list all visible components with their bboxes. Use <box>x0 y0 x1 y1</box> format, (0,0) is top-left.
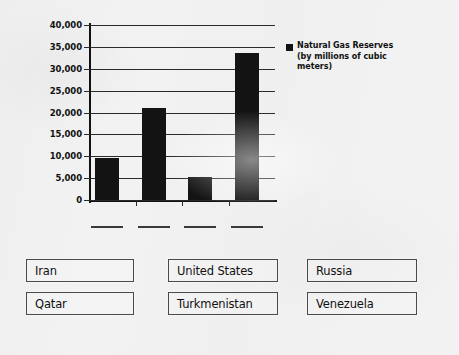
y-axis-tick-label: 10,000 <box>50 151 82 161</box>
y-axis-tick-label: 0 <box>76 195 82 205</box>
y-axis-tick <box>84 91 89 92</box>
x-axis-tick <box>182 200 183 206</box>
y-axis-tick <box>84 47 89 48</box>
y-axis-tick <box>84 25 89 26</box>
y-axis-tick-label: 5,000 <box>56 173 82 183</box>
plot-area: 05,00010,00015,00020,00025,00030,00035,0… <box>89 25 275 200</box>
x-axis-tick <box>229 200 230 206</box>
legend-label-line-1: Natural Gas Reserves <box>297 41 393 52</box>
answer-option-iran[interactable]: Iran <box>26 259 134 282</box>
answer-blank-2[interactable] <box>184 226 216 228</box>
bar <box>142 108 166 200</box>
y-axis-tick <box>84 200 89 201</box>
answer-option-russia[interactable]: Russia <box>307 259 417 282</box>
legend-label-line-3: meters) <box>297 62 393 73</box>
bar <box>188 177 212 200</box>
answer-option-turkmenistan[interactable]: Turkmenistan <box>168 292 278 315</box>
bar-chart: 05,00010,00015,00020,00025,00030,00035,0… <box>0 0 459 240</box>
legend-swatch-icon <box>286 44 293 51</box>
y-axis-tick <box>84 69 89 70</box>
y-axis-tick <box>84 178 89 179</box>
y-axis-tick-label: 15,000 <box>50 129 82 139</box>
legend-label-line-2: (by millions of cubic <box>297 52 393 63</box>
y-axis-tick-label: 35,000 <box>50 42 82 52</box>
y-axis-tick-label: 20,000 <box>50 108 82 118</box>
answer-option-united-states[interactable]: United States <box>168 259 278 282</box>
bar <box>95 158 119 200</box>
x-axis-tick <box>136 200 137 206</box>
answer-blank-1[interactable] <box>138 226 170 228</box>
bar <box>235 53 259 200</box>
answer-option-qatar[interactable]: Qatar <box>26 292 134 315</box>
answer-option-venezuela[interactable]: Venezuela <box>307 292 417 315</box>
y-axis-tick-label: 30,000 <box>50 64 82 74</box>
y-axis-tick <box>84 156 89 157</box>
y-axis-tick <box>84 113 89 114</box>
answer-blank-0[interactable] <box>91 226 123 228</box>
gridline <box>89 47 275 48</box>
answer-blank-3[interactable] <box>231 226 263 228</box>
gridline <box>89 25 275 26</box>
y-axis-tick <box>84 134 89 135</box>
answer-bank: IranUnited StatesRussiaQatarTurkmenistan… <box>0 252 459 332</box>
legend-label: Natural Gas Reserves (by millions of cub… <box>297 41 393 73</box>
y-axis-tick-label: 25,000 <box>50 86 82 96</box>
chart-legend: Natural Gas Reserves (by millions of cub… <box>286 41 436 73</box>
y-axis-tick-label: 40,000 <box>50 20 82 30</box>
